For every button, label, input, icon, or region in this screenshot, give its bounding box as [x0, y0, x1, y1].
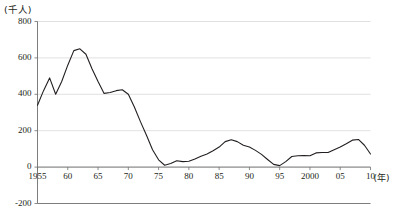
x-axis-unit-label: (年) [374, 171, 390, 184]
x-axis-tick-label: 60 [53, 171, 83, 181]
y-axis-tick-label: 200 [0, 125, 32, 135]
chart-container: (千人) 8006004002000-200 19556065707580859… [0, 0, 394, 218]
x-axis-tick-label: 05 [325, 171, 355, 181]
x-axis-tick-label: 70 [113, 171, 143, 181]
data-series-line [38, 49, 371, 166]
x-axis-tick-label: 2000 [295, 171, 325, 181]
y-axis-tick-label: 400 [0, 88, 32, 98]
y-axis-tick-label: -200 [0, 198, 32, 208]
y-axis-tick-label: 600 [0, 52, 32, 62]
x-axis-tick-label: 85 [204, 171, 234, 181]
y-axis-tick-label: 800 [0, 16, 32, 26]
x-axis-tick-label: 90 [234, 171, 264, 181]
x-axis-tick-label: 65 [83, 171, 113, 181]
y-axis-tick-label: 0 [0, 161, 32, 171]
x-axis-tick-label: 80 [174, 171, 204, 181]
x-axis-tick-label: 95 [265, 171, 295, 181]
x-axis-tick-label: 75 [144, 171, 174, 181]
line-chart-plot [0, 0, 394, 218]
x-axis-tick-label: 1955 [23, 171, 53, 181]
